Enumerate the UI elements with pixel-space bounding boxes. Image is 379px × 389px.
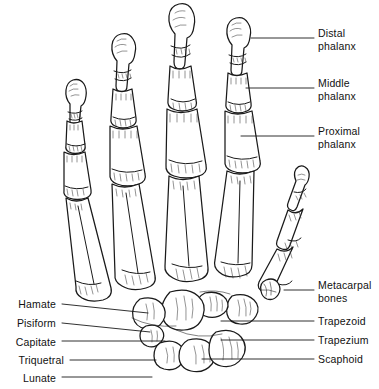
hand-skeleton-illustration: .o { fill:#ffffff; stroke:#1a1a1a; strok…: [0, 0, 379, 389]
label-lunate: Lunate: [23, 372, 56, 385]
digit-4-ring-finger: [110, 34, 155, 290]
label-hamate: Hamate: [18, 298, 56, 311]
label-pisiform: Pisiform: [17, 317, 56, 330]
label-distal-phalanx-line1: Distal: [318, 27, 345, 39]
label-proximal-phalanx: Proximalphalanx: [318, 125, 360, 150]
label-scaphoid: Scaphoid: [318, 353, 363, 366]
label-middle-phalanx-line2: phalanx: [318, 90, 356, 102]
label-distal-phalanx: Distalphalanx: [318, 27, 356, 52]
label-distal-phalanx-line2: phalanx: [318, 40, 356, 52]
label-trapezoid: Trapezoid: [318, 315, 366, 328]
digit-5-little-finger: [64, 80, 111, 302]
label-middle-phalanx-line1: Middle: [318, 77, 350, 89]
label-metacarpal-bones: Metacarpalbones: [318, 279, 371, 304]
digit-2-index-finger: [215, 18, 261, 278]
label-metacarpal-bones-line2: bones: [318, 292, 347, 304]
digit-3-middle-finger: [165, 4, 208, 282]
bone-trapezium: [227, 295, 259, 324]
hand-skeleton-figure: .o { fill:#ffffff; stroke:#1a1a1a; strok…: [0, 0, 379, 389]
carpal-bones-cluster: [132, 290, 258, 371]
label-proximal-phalanx-line2: phalanx: [318, 138, 356, 150]
label-capitate: Capitate: [16, 336, 56, 349]
label-metacarpal-bones-line1: Metacarpal: [318, 279, 371, 291]
label-trapezium: Trapezium: [318, 334, 369, 347]
bone-capitate: [162, 290, 205, 330]
bone-hamate: [133, 298, 166, 330]
label-middle-phalanx: Middlephalanx: [318, 77, 356, 102]
label-triquetral: Triquetral: [19, 354, 64, 367]
digit-1-thumb: [258, 166, 309, 300]
label-proximal-phalanx-line1: Proximal: [318, 125, 360, 137]
